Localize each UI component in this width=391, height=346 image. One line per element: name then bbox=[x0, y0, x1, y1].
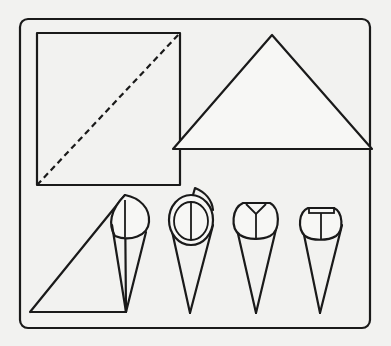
step-1-square bbox=[37, 33, 180, 185]
step-3-rolling-cone bbox=[30, 195, 149, 312]
frame bbox=[20, 19, 370, 328]
step-5-cone-flap bbox=[234, 203, 278, 313]
diagonal-fold-line bbox=[37, 33, 180, 185]
cone-folding-diagram bbox=[0, 0, 391, 346]
step-2-triangle bbox=[173, 35, 372, 149]
step-4-cone-rim bbox=[169, 188, 213, 313]
step-6-cone-finished bbox=[300, 208, 342, 313]
